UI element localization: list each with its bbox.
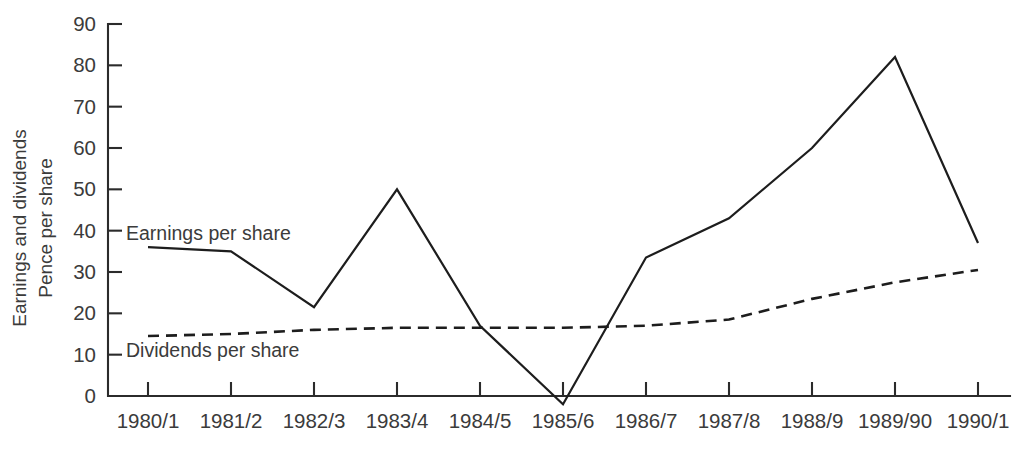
x-axis-category-label: 1981/2 <box>200 409 263 432</box>
y-axis-tick-labels: 0102030405060708090 <box>73 12 96 407</box>
y-axis-tick-label: 80 <box>73 53 96 76</box>
y-axis-tick-label: 10 <box>73 343 96 366</box>
x-axis-category-label: 1990/1 <box>947 409 1010 432</box>
x-axis-category-label: 1988/9 <box>781 409 844 432</box>
x-axis-category-label: 1980/1 <box>117 409 180 432</box>
x-axis-tick-marks <box>148 382 978 396</box>
y-axis-tick-label: 70 <box>73 95 96 118</box>
x-axis-category-label: 1983/4 <box>366 409 429 432</box>
y-axis-tick-label: 40 <box>73 219 96 242</box>
x-axis-category-label: 1987/8 <box>698 409 761 432</box>
annotation-earnings-per-share: Earnings per share <box>126 222 291 244</box>
y-axis-title: Earnings and dividends Pence per share <box>9 129 56 327</box>
annotation-dividends-per-share: Dividends per share <box>126 339 299 361</box>
x-axis-category-label: 1984/5 <box>449 409 512 432</box>
line-chart: Earnings and dividends Pence per share 0… <box>0 0 1029 456</box>
y-axis-tick-label: 0 <box>85 384 96 407</box>
y-axis-title-line-2: Pence per share <box>35 158 56 297</box>
y-axis-tick-label: 90 <box>73 12 96 35</box>
y-axis-tick-label: 50 <box>73 177 96 200</box>
x-axis-category-label: 1985/6 <box>532 409 595 432</box>
y-axis-tick-label: 20 <box>73 301 96 324</box>
y-axis-tick-marks <box>108 24 122 355</box>
chart-container: Earnings and dividends Pence per share 0… <box>0 0 1029 456</box>
x-axis-category-label: 1986/7 <box>615 409 678 432</box>
y-axis-tick-label: 60 <box>73 136 96 159</box>
y-axis-title-line-1: Earnings and dividends <box>9 129 30 327</box>
x-axis-category-label: 1982/3 <box>283 409 346 432</box>
x-axis-category-label: 1989/90 <box>858 409 932 432</box>
x-axis-category-labels: 1980/11981/21982/31983/41984/51985/61986… <box>117 409 1010 432</box>
y-axis-tick-label: 30 <box>73 260 96 283</box>
